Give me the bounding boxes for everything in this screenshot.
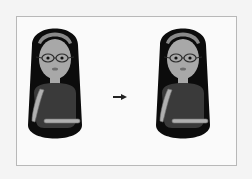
figure-after xyxy=(156,29,210,139)
figure-before xyxy=(28,29,82,139)
illustration xyxy=(0,0,252,179)
arrow-right-icon xyxy=(113,94,127,100)
